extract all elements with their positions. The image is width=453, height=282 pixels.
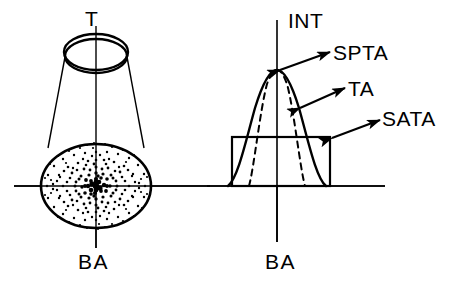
beam-cone-right-edge xyxy=(127,57,144,148)
sata-callout-arrow xyxy=(332,120,380,138)
sata-rectangle xyxy=(232,137,330,186)
ta-label: TA xyxy=(348,78,374,99)
transducer-label: T xyxy=(85,8,98,29)
spta-label: SPTA xyxy=(333,42,388,63)
sata-label: SATA xyxy=(382,108,436,129)
beam-cone-left-edge xyxy=(48,57,65,148)
left-panel-group xyxy=(14,26,210,248)
intensity-axis-label: INT xyxy=(288,10,323,31)
spta-callout-arrow xyxy=(280,52,330,70)
ultrasound-intensity-figure: T INT SPTA TA SATA BA BA xyxy=(0,0,453,282)
beam-area-label-right: BA xyxy=(265,251,296,272)
beam-area-label-left: BA xyxy=(78,251,109,272)
ta-callout-arrow xyxy=(300,88,345,108)
